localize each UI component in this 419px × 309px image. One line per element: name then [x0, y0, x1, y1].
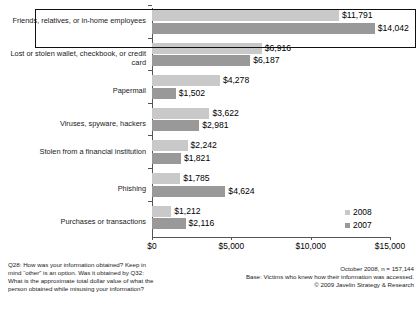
category-tick [148, 70, 152, 71]
footnote-left-line: Q28: How was your information obtained? … [8, 261, 200, 269]
bar-2007 [152, 55, 250, 66]
bar-group: $6,916$6,187 [152, 43, 419, 67]
footnote-right-line: © 2009 Javelin Strategy & Research [184, 281, 414, 289]
bar-category-row: Lost or stolen wallet, checkbook, or cre… [0, 43, 419, 67]
bar-value-label: $11,791 [342, 10, 372, 21]
bar-value-label: $3,622 [212, 108, 238, 119]
bar-value-label: $4,624 [228, 186, 254, 197]
category-label: Purchases or transactions [6, 217, 146, 226]
legend-label: 2008 [353, 207, 372, 218]
bar-value-label: $2,242 [191, 140, 217, 151]
x-tick-label: $15,000 [375, 241, 405, 252]
bar-2008 [152, 10, 339, 21]
category-label: Lost or stolen wallet, checkbook, or cre… [6, 49, 146, 67]
category-label: Viruses, spyware, hackers [6, 119, 146, 128]
footnote-left-line: What is the approximate total dollar val… [8, 277, 200, 285]
chart-page: Friends, relatives, or in-home employees… [0, 0, 419, 309]
bar-2008 [152, 108, 209, 119]
x-tick-label: $5,000 [219, 241, 245, 252]
category-label: Stolen from a financial institution [6, 147, 146, 156]
bar-group: $4,278$1,502 [152, 75, 419, 99]
bar-category-row: Viruses, spyware, hackers$3,622$2,981 [0, 108, 419, 132]
bar-category-row: Phishing$1,785$4,624 [0, 173, 419, 197]
bar-value-label: $1,785 [183, 173, 209, 184]
bar-2008 [152, 75, 220, 86]
bar-group: $2,242$1,821 [152, 140, 419, 164]
legend-swatch-icon [345, 210, 350, 215]
bar-value-label: $14,042 [378, 23, 409, 34]
bar-2008 [152, 140, 188, 151]
bar-2007 [152, 88, 176, 99]
x-tick-label: $10,000 [296, 241, 326, 252]
legend-item-2007[interactable]: 2007 [345, 220, 415, 231]
footnote-left-line: person obtained while misusing your info… [8, 285, 200, 293]
legend-swatch-icon [345, 223, 350, 228]
bar-value-label: $6,916 [265, 43, 291, 54]
category-tick [148, 201, 152, 202]
category-tick [148, 168, 152, 169]
legend-label: 2007 [353, 220, 372, 231]
category-tick [148, 135, 152, 136]
bar-value-label: $4,278 [223, 75, 249, 86]
x-tick [390, 237, 391, 240]
legend-item-2008[interactable]: 2008 [345, 207, 415, 218]
footnote-left-line: mind “other” is an option. Was it obtain… [8, 269, 200, 277]
bar-value-label: $1,502 [179, 88, 205, 99]
bar-2007 [152, 186, 225, 197]
bar-2007 [152, 218, 186, 229]
footnote-right-line: Base: Victims who knew how their informa… [184, 273, 414, 281]
category-label: Friends, relatives, or in-home employees [6, 16, 146, 25]
bar-2008 [152, 173, 180, 184]
bar-2007 [152, 23, 375, 34]
bar-group: $11,791$14,042 [152, 10, 419, 34]
bar-category-row: Stolen from a financial institution$2,24… [0, 140, 419, 164]
bar-value-label: $6,187 [253, 55, 279, 66]
category-tick [148, 38, 152, 39]
bar-value-label: $2,116 [189, 218, 215, 229]
bar-2008 [152, 43, 262, 54]
footnote-right-line: October 2008, n = 157,144 [184, 265, 414, 273]
bar-group: $1,785$4,624 [152, 173, 419, 197]
chart-legend: 20082007 [345, 207, 415, 233]
category-label: Phishing [6, 184, 146, 193]
bar-category-row: Papermail$4,278$1,502 [0, 75, 419, 99]
bar-2007 [152, 153, 181, 164]
bar-2008 [152, 206, 171, 217]
footnote-left: Q28: How was your information obtained? … [8, 261, 200, 293]
bar-value-label: $2,981 [202, 120, 228, 131]
footnote-right: October 2008, n = 157,144Base: Victims w… [184, 265, 414, 289]
bar-group: $3,622$2,981 [152, 108, 419, 132]
category-tick [148, 103, 152, 104]
bar-2007 [152, 120, 199, 131]
x-tick-label: $0 [147, 241, 156, 252]
bar-value-label: $1,212 [174, 206, 200, 217]
chart-plot-area: Friends, relatives, or in-home employees… [0, 0, 419, 240]
x-axis-line [152, 237, 390, 238]
category-tick [148, 5, 152, 6]
bar-category-row: Friends, relatives, or in-home employees… [0, 10, 419, 34]
bar-value-label: $1,821 [184, 153, 210, 164]
category-label: Papermail [6, 86, 146, 95]
